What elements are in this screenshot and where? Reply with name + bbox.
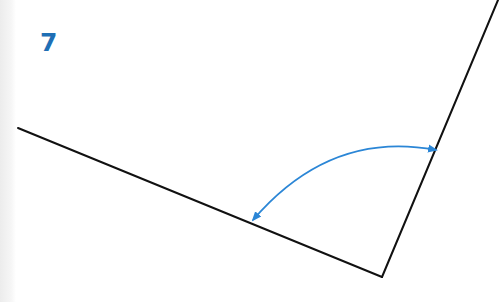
ray-right bbox=[382, 0, 498, 277]
ray-left bbox=[18, 128, 382, 277]
angle-arc-arrow bbox=[253, 146, 436, 220]
angle-diagram bbox=[0, 0, 500, 302]
